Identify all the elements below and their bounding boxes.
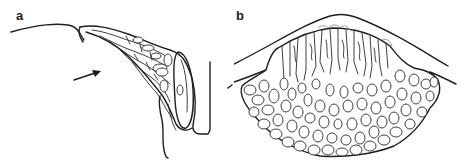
panel-a: a	[0, 0, 234, 168]
panel-b-drawing	[234, 0, 468, 168]
panel-a-drawing	[0, 0, 234, 168]
panel-b: b	[234, 0, 468, 168]
